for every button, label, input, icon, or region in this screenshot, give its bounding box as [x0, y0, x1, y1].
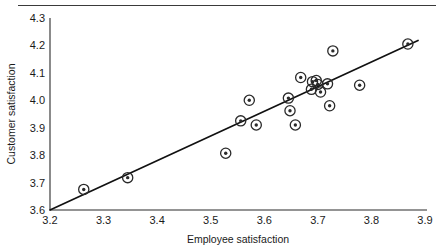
data-point-marker [221, 148, 231, 158]
x-tick-label: 3.5 [203, 214, 218, 226]
y-tick-label: 4.1 [30, 67, 45, 79]
data-point-marker [325, 101, 335, 111]
y-tick-label: 3.7 [30, 177, 45, 189]
x-axis-title: Employee satisfaction [187, 233, 289, 245]
x-tick-label: 3.8 [364, 214, 379, 226]
x-tick-label: 3.6 [257, 214, 272, 226]
x-tick-label: 3.9 [417, 214, 432, 226]
x-tick-label: 3.7 [310, 214, 325, 226]
data-point-marker [79, 184, 89, 194]
x-tick-label: 3.4 [149, 214, 164, 226]
scatter-plot-canvas: 3.63.73.83.94.04.14.24.3 3.23.33.43.53.6… [0, 0, 445, 248]
data-point-marker [296, 72, 306, 82]
data-point-marker [244, 95, 254, 105]
y-tick-label: 4.3 [30, 12, 45, 24]
data-point-marker [290, 120, 300, 130]
data-point-marker [251, 120, 261, 130]
chart-figure: 3.63.73.83.94.04.14.24.3 3.23.33.43.53.6… [0, 0, 445, 248]
y-tick-label: 3.8 [30, 149, 45, 161]
regression-line [50, 40, 418, 210]
x-axis-tick-labels: 3.23.33.43.53.63.73.83.9 [42, 214, 432, 226]
y-tick-label: 4.2 [30, 39, 45, 51]
y-tick-label: 3.9 [30, 122, 45, 134]
data-point-marker [355, 80, 365, 90]
y-axis-title: Customer satisfaction [5, 63, 17, 164]
data-point-marker [285, 106, 295, 116]
y-tick-label: 4.0 [30, 94, 45, 106]
data-point-marker [328, 46, 338, 56]
top-rule-divider [18, 5, 436, 6]
data-points [79, 39, 413, 195]
x-tick-label: 3.3 [96, 214, 111, 226]
y-axis-tick-labels: 3.63.73.83.94.04.14.24.3 [30, 12, 45, 216]
x-tick-label: 3.2 [42, 214, 57, 226]
regression-line-segment [50, 40, 418, 210]
